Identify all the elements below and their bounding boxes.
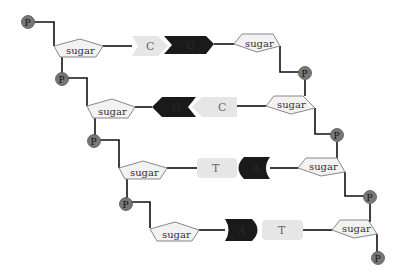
sugar-label: sugar (342, 223, 371, 234)
phosphate-label: P (91, 137, 97, 147)
base-pair-3: T A (197, 157, 270, 179)
base-label-t-3: T (212, 162, 220, 175)
sugar-label: sugar (130, 167, 159, 178)
phosphate-label: P (375, 254, 381, 264)
base-label-g-1: G (186, 39, 195, 52)
base-label-a-3: A (251, 162, 261, 175)
base-pair-4: A T (225, 219, 303, 241)
sugar-label: sugar (245, 38, 274, 49)
base-c-2 (192, 97, 237, 117)
base-label-c-2: C (218, 101, 226, 114)
dna-diagram: C G G C T A A T sugar sugar sugar sugar (0, 0, 403, 277)
phosphate-label: P (302, 69, 308, 79)
base-label-t-4: T (278, 224, 286, 237)
sugar-label: sugar (162, 229, 191, 240)
phosphate-label: P (334, 131, 340, 141)
sugar-label: sugar (66, 45, 95, 56)
base-label-c-1: C (146, 40, 154, 53)
left-sugar-labels: sugar sugar sugar sugar (66, 45, 191, 240)
base-label-a-4: A (237, 224, 247, 237)
base-pair-1: C G (132, 36, 214, 56)
sugar-label: sugar (98, 106, 127, 117)
phosphate-label: P (367, 193, 373, 203)
phosphate-label: P (123, 200, 129, 210)
sugar-label: sugar (277, 99, 306, 110)
right-sugars (234, 34, 377, 238)
base-pair-2: G C (152, 97, 237, 117)
sugar-label: sugar (309, 161, 338, 172)
dna-ladder-svg: C G G C T A A T sugar sugar sugar sugar (0, 0, 403, 277)
base-label-g-2: G (172, 101, 181, 114)
phosphate-label: P (25, 18, 31, 28)
phosphate-label: P (59, 75, 65, 85)
